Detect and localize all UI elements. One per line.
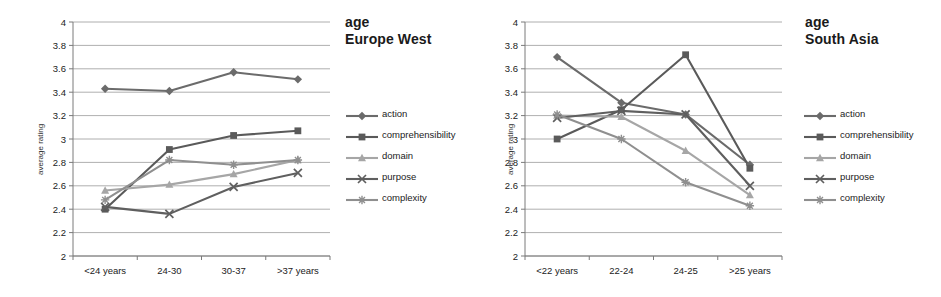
y-tick-label: 3 (61, 134, 66, 145)
data-point-marker-asterisk (681, 178, 689, 186)
legend-marker-cross-icon (803, 171, 837, 183)
legend-marker-diamond-icon (803, 108, 837, 120)
data-point-marker-asterisk (617, 135, 625, 143)
data-point-marker-square (166, 146, 173, 153)
legend-marker-asterisk-icon (345, 192, 379, 204)
legend-marker-square-icon (803, 129, 837, 141)
data-point-marker-square (230, 132, 237, 139)
data-point-marker-square (682, 51, 689, 58)
legend-label: comprehensibility (382, 124, 455, 145)
y-tick-label: 2 (513, 251, 518, 262)
y-tick-label: 3.4 (53, 87, 66, 98)
legend-label: complexity (840, 187, 885, 208)
legend-label: action (382, 103, 407, 124)
legend-label: action (840, 103, 865, 124)
chart-title-europe-west: age Europe West (345, 14, 431, 48)
x-tick-label: >37 years (277, 265, 319, 276)
data-point-marker-asterisk (816, 195, 824, 203)
y-tick-label: 3.4 (505, 87, 518, 98)
y-tick-label: 2.2 (505, 227, 518, 238)
data-point-marker-diamond (101, 84, 109, 92)
chart-title-line-2: Europe West (345, 31, 431, 48)
y-tick-label: 2 (61, 251, 66, 262)
data-point-marker-diamond (294, 75, 302, 83)
legend-label: purpose (382, 166, 416, 187)
y-tick-label: 3.2 (53, 110, 66, 121)
data-point-marker-diamond (816, 111, 824, 119)
legend-item-purpose[interactable]: purpose (345, 166, 455, 187)
data-point-marker-asterisk (553, 110, 561, 118)
legend-item-action[interactable]: action (345, 103, 455, 124)
data-point-marker-square (554, 136, 561, 143)
legend-label: domain (840, 145, 871, 166)
data-point-marker-diamond (229, 68, 237, 76)
y-tick-label: 4 (61, 17, 66, 28)
y-axis-title: average rating (36, 124, 45, 175)
legend-item-action[interactable]: action (803, 103, 913, 124)
y-axis-title: average rating (506, 124, 515, 175)
legend-marker-triangle-icon (803, 150, 837, 162)
y-tick-label: 3.8 (505, 40, 518, 51)
legend-marker-cross-icon (345, 171, 379, 183)
legend-item-complexity[interactable]: complexity (803, 187, 913, 208)
series-line-action (557, 57, 750, 165)
data-point-marker-square (817, 133, 824, 140)
y-tick-label: 2.6 (505, 180, 518, 191)
legend-item-domain[interactable]: domain (345, 145, 455, 166)
legend-marker-asterisk-icon (803, 192, 837, 204)
chart-panel-south-asia: 22.22.42.62.833.23.43.63.84<22 years22-2… (470, 0, 941, 297)
legend-label: comprehensibility (840, 124, 913, 145)
series-line-comprehensibility (557, 55, 750, 168)
chart-legend-europe-west: actioncomprehensibilitydomainpurposecomp… (345, 103, 455, 208)
legend-marker-triangle-icon (345, 150, 379, 162)
data-point-marker-asterisk (358, 195, 366, 203)
data-point-marker-square (746, 165, 753, 172)
chart-panel-europe-west: 22.22.42.62.833.23.43.63.84<24 years24-3… (0, 0, 470, 297)
chart-legend-south-asia: actioncomprehensibilitydomainpurposecomp… (803, 103, 913, 208)
x-tick-label: <22 years (536, 265, 578, 276)
legend-item-domain[interactable]: domain (803, 145, 913, 166)
x-tick-label: 24-30 (157, 265, 181, 276)
x-tick-label: 30-37 (221, 265, 245, 276)
data-point-marker-asterisk (294, 156, 302, 164)
y-tick-label: 2.2 (53, 227, 66, 238)
legend-item-comprehensibility[interactable]: comprehensibility (345, 124, 455, 145)
x-tick-label: 22-24 (609, 265, 633, 276)
y-tick-label: 3.8 (53, 40, 66, 51)
legend-item-complexity[interactable]: complexity (345, 187, 455, 208)
legend-label: complexity (382, 187, 427, 208)
y-tick-label: 3.6 (53, 63, 66, 74)
series-line-comprehensibility (105, 131, 298, 209)
data-point-marker-square (294, 127, 301, 134)
y-tick-label: 3.6 (505, 63, 518, 74)
two-panel-line-chart-figure: 22.22.42.62.833.23.43.63.84<24 years24-3… (0, 0, 941, 297)
data-point-marker-diamond (165, 87, 173, 95)
legend-marker-diamond-icon (345, 108, 379, 120)
x-tick-label: <24 years (84, 265, 126, 276)
y-tick-label: 2.6 (53, 180, 66, 191)
legend-item-comprehensibility[interactable]: comprehensibility (803, 124, 913, 145)
data-point-marker-asterisk (165, 156, 173, 164)
chart-title-line-1: age (345, 14, 431, 31)
y-tick-label: 2.4 (505, 204, 518, 215)
x-tick-label: 24-25 (673, 265, 697, 276)
chart-title-south-asia: age South Asia (805, 14, 879, 48)
y-tick-label: 4 (513, 17, 518, 28)
data-point-marker-square (359, 133, 366, 140)
y-tick-label: 3.2 (505, 110, 518, 121)
series-line-complexity (557, 114, 750, 205)
chart-title-line-1: age (805, 14, 879, 31)
y-tick-label: 2.4 (53, 204, 66, 215)
x-tick-label: >25 years (729, 265, 771, 276)
chart-title-line-2: South Asia (805, 31, 879, 48)
y-tick-label: 2.8 (53, 157, 66, 168)
data-point-marker-diamond (358, 111, 366, 119)
data-point-marker-asterisk (746, 201, 754, 209)
data-point-marker-asterisk (229, 161, 237, 169)
data-point-marker-asterisk (101, 196, 109, 204)
series-line-action (105, 72, 298, 91)
legend-label: domain (382, 145, 413, 166)
legend-item-purpose[interactable]: purpose (803, 166, 913, 187)
legend-marker-square-icon (345, 129, 379, 141)
series-line-domain (557, 116, 750, 196)
